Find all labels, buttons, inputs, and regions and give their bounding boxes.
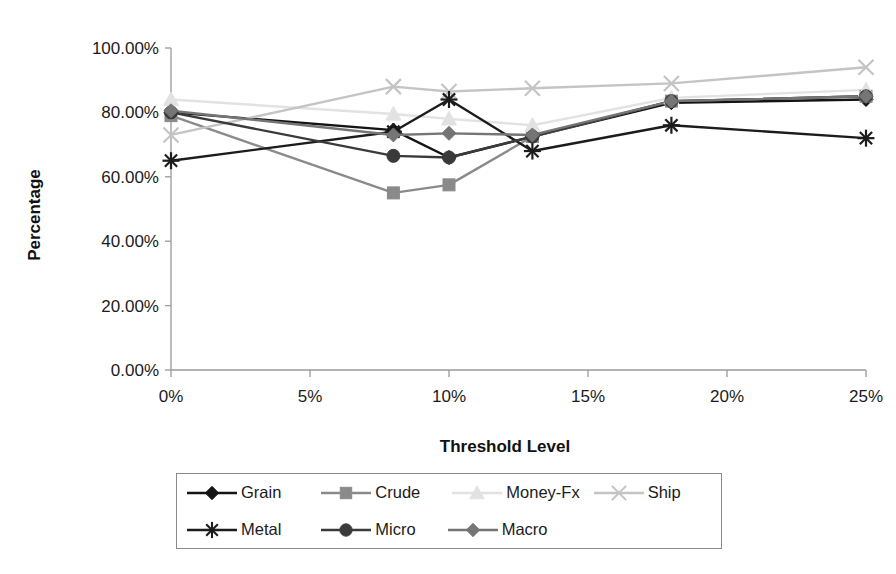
legend-marker-grain-icon xyxy=(185,482,239,504)
legend-marker-metal-icon xyxy=(185,519,239,541)
legend-label: Macro xyxy=(502,520,548,539)
legend-item-crude[interactable]: Crude xyxy=(319,482,420,504)
legend-sample xyxy=(185,519,239,541)
legend-marker-ship-icon xyxy=(592,482,646,504)
legend-marker-money-fx-icon xyxy=(450,482,504,504)
legend-label: Micro xyxy=(375,520,415,539)
axis-lines xyxy=(165,48,866,377)
legend-label: Grain xyxy=(241,483,281,502)
legend-item-money-fx[interactable]: Money-Fx xyxy=(450,482,579,504)
plot-area: 0.00%20.00%40.00%60.00%80.00%100.00% 0%5… xyxy=(0,0,896,470)
legend-item-macro[interactable]: Macro xyxy=(446,519,548,541)
legend-item-ship[interactable]: Ship xyxy=(592,482,681,504)
legend-row-2: MetalMicroMacro xyxy=(177,511,721,548)
series-markers-metal xyxy=(163,91,875,169)
y-tick-label: 20.00% xyxy=(101,297,159,316)
legend-sample xyxy=(446,519,500,541)
legend-sample xyxy=(185,482,239,504)
y-tick-label: 80.00% xyxy=(101,103,159,122)
series-line-grain xyxy=(171,100,866,158)
series-markers xyxy=(163,60,875,199)
legend-marker-crude-icon xyxy=(319,482,373,504)
x-tick-label: 0% xyxy=(159,387,184,406)
series-line-crude xyxy=(171,96,866,193)
legend-sample xyxy=(592,482,646,504)
legend-marker-macro-icon xyxy=(446,519,500,541)
line-chart-svg: 0.00%20.00%40.00%60.00%80.00%100.00% 0%5… xyxy=(0,0,896,470)
x-tick-label: 15% xyxy=(571,387,605,406)
x-tick-label: 5% xyxy=(298,387,323,406)
chart-legend: GrainCrudeMoney-FxShip MetalMicroMacro xyxy=(176,473,722,549)
series-markers-grain xyxy=(164,93,873,165)
legend-label: Ship xyxy=(648,483,681,502)
x-axis-tick-labels: 0%5%10%15%20%25% xyxy=(159,387,883,406)
legend-item-metal[interactable]: Metal xyxy=(185,519,281,541)
y-tick-label: 60.00% xyxy=(101,168,159,187)
x-tick-label: 25% xyxy=(849,387,883,406)
y-axis-title: Percentage xyxy=(25,169,44,261)
legend-row-1: GrainCrudeMoney-FxShip xyxy=(177,474,721,511)
legend-sample xyxy=(319,482,373,504)
legend-label: Crude xyxy=(375,483,420,502)
x-axis-title: Threshold Level xyxy=(440,437,570,456)
legend-item-micro[interactable]: Micro xyxy=(319,519,415,541)
legend-marker-micro-icon xyxy=(319,519,373,541)
x-tick-label: 20% xyxy=(710,387,744,406)
legend-sample xyxy=(450,482,504,504)
y-tick-label: 40.00% xyxy=(101,232,159,251)
chart-root: 0.00%20.00%40.00%60.00%80.00%100.00% 0%5… xyxy=(0,0,896,574)
legend-sample xyxy=(319,519,373,541)
legend-label: Money-Fx xyxy=(506,483,579,502)
legend-item-grain[interactable]: Grain xyxy=(185,482,281,504)
y-axis-tick-labels: 0.00%20.00%40.00%60.00%80.00%100.00% xyxy=(92,39,159,380)
series-lines xyxy=(171,67,866,193)
y-tick-label: 0.00% xyxy=(111,361,159,380)
x-tick-label: 10% xyxy=(432,387,466,406)
y-tick-label: 100.00% xyxy=(92,39,159,58)
legend-label: Metal xyxy=(241,520,281,539)
